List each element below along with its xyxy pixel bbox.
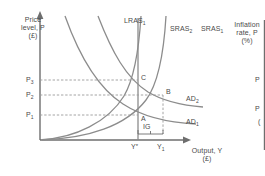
point-label-b: B: [166, 88, 171, 96]
y-axis-title-line3: (£): [13, 32, 53, 40]
curve-label-ad2-sub: 2: [196, 98, 199, 104]
curve-sras1: [42, 16, 166, 140]
y-axis-title-line1: Price: [13, 16, 53, 24]
y-tick-p2-sub: 2: [31, 94, 34, 100]
curve-label-sras1-text: SRAS: [201, 25, 220, 32]
right-y-tick-3: (: [258, 118, 260, 126]
curve-label-ad1: AD1: [186, 118, 199, 126]
right-y-axis-title: Inflation rate, P (%): [226, 21, 265, 45]
curve-sras2: [42, 16, 141, 140]
y-tick-p1: P1: [26, 111, 34, 119]
curve-label-ad1-text: AD: [186, 118, 196, 125]
curve-label-lras1-sub: 1: [143, 20, 146, 26]
x-tick-y1: Y1: [157, 143, 165, 151]
curve-label-lras1: LRAS1: [124, 17, 146, 25]
x-tick-y-star-sup: *: [136, 143, 138, 149]
x-axis-title-line2: (£): [183, 155, 231, 163]
y-axis-title-line2: level, P: [13, 24, 53, 32]
curve-label-ad2-text: AD: [186, 95, 196, 102]
y-tick-p3: P3: [26, 76, 34, 84]
ad-as-diagram: Price level, P (£) P3 P2 P1 Y* Y1 Output…: [0, 0, 265, 176]
x-tick-y1-sub: 1: [162, 146, 165, 152]
curve-label-sras2: SRAS2: [170, 25, 192, 33]
curve-label-ad2: AD2: [186, 95, 199, 103]
point-label-a: A: [141, 115, 146, 123]
y-tick-p2: P2: [26, 91, 34, 99]
x-axis-title: Output, Y (£): [183, 147, 231, 163]
right-y-tick-1: P: [255, 76, 260, 84]
annotation-ig: IG: [143, 123, 151, 131]
right-y-axis-title-line2: rate, P: [226, 29, 265, 37]
right-y-tick-2: P: [255, 105, 260, 113]
y-axis-title: Price level, P (£): [13, 16, 53, 40]
x-axis-arrow: [183, 137, 191, 144]
curve-label-ad1-sub: 1: [196, 121, 199, 127]
curve-label-sras2-text: SRAS: [170, 25, 189, 32]
right-y-axis-title-line1: Inflation: [226, 21, 265, 29]
y-tick-p1-sub: 1: [31, 114, 34, 120]
x-tick-y-star: Y*: [131, 143, 138, 151]
left-chart-axes: [37, 11, 191, 143]
curve-label-lras1-text: LRAS: [124, 17, 143, 24]
right-y-axis-title-line3: (%): [226, 37, 265, 45]
y-tick-p3-sub: 3: [31, 79, 34, 85]
x-axis-title-line1: Output, Y: [183, 147, 231, 155]
curve-label-sras2-sub: 2: [189, 28, 192, 34]
curve-label-sras1: SRAS1: [201, 25, 223, 33]
curve-label-sras1-sub: 1: [220, 28, 223, 34]
point-label-c: C: [141, 74, 146, 82]
